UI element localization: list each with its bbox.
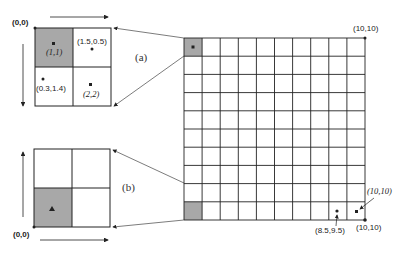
point-marker-85-95 <box>335 209 338 212</box>
corner-dot-bottom-right <box>363 218 367 222</box>
grid-center-marker <box>192 46 195 49</box>
point-marker-1 <box>91 48 94 51</box>
panel-label-b: (b) <box>122 181 135 194</box>
connector-b-bottom <box>113 220 184 227</box>
pointer-85-95 <box>336 215 337 226</box>
origin-label-a: (0,0) <box>12 18 29 27</box>
origin-label-b: (0,0) <box>13 230 30 239</box>
shaded-cell-b <box>34 188 72 227</box>
connector-a-top <box>114 28 184 38</box>
center-marker-2 <box>89 83 92 86</box>
point-label-85-95: (8.5,9.5) <box>315 226 345 235</box>
diagram-canvas: (0,0) (1,1) (2,2) (1.5,0.5) (0.3,1.4) (a… <box>0 0 405 253</box>
shaded-cell-bottom-left <box>184 202 202 220</box>
center-marker-10-10 <box>355 210 358 213</box>
center-marker-1 <box>52 42 55 45</box>
pointer-10-10 <box>360 198 374 209</box>
corner-dot-top-right <box>364 37 367 40</box>
point-marker-2 <box>42 78 45 81</box>
connector-b-top <box>113 150 184 183</box>
large-grid <box>184 38 365 220</box>
center-label-1: (1,1) <box>46 47 62 57</box>
center-label-2: (2,2) <box>83 89 99 99</box>
corner-label-top-right: (10,10) <box>353 24 379 33</box>
point-label-2: (0.3,1.4) <box>36 84 66 93</box>
point-label-1: (1.5,0.5) <box>77 37 107 46</box>
corner-label-bottom-right: (10,10) <box>356 223 382 232</box>
panel-b <box>23 149 110 240</box>
center-label-10-10: (10,10) <box>367 186 392 196</box>
panel-label-a: (a) <box>135 51 148 64</box>
connector-a-bottom <box>114 56 184 106</box>
